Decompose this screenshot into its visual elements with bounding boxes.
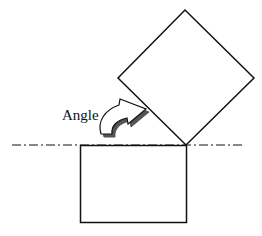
angle-diagram: Angle <box>0 0 262 236</box>
angle-label: Angle <box>62 107 99 123</box>
rotated-square <box>118 10 254 145</box>
base-rectangle <box>81 146 187 223</box>
